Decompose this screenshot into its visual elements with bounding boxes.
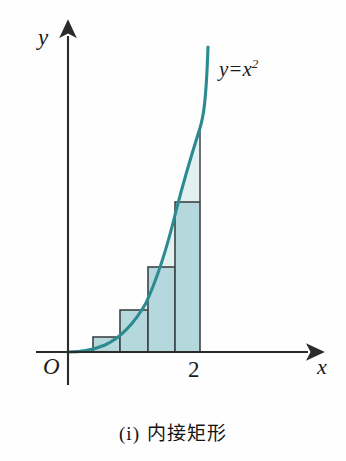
x-tick-label-2: 2: [188, 358, 200, 381]
curve-equation-base: y=x: [219, 57, 252, 81]
caption-text: 内接矩形: [147, 423, 227, 444]
figure-container: y x O 2 y=x2 (i)内接矩形: [0, 0, 346, 461]
figure-caption: (i)内接矩形: [0, 418, 346, 445]
inscribed-rectangle-3: [148, 267, 175, 352]
curve-equation-exponent: 2: [252, 56, 259, 71]
origin-label: O: [43, 355, 60, 378]
y-axis-label: y: [38, 26, 48, 49]
inscribed-rectangle-4: [175, 202, 200, 352]
inscribed-rectangle-group: [93, 202, 200, 352]
x-axis-label: x: [317, 356, 327, 378]
curve-equation-label: y=x2: [219, 57, 258, 80]
caption-number: (i): [119, 423, 140, 444]
